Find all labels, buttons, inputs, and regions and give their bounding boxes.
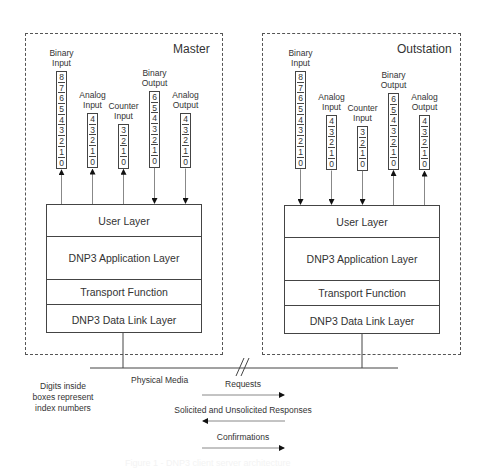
- break-mark-2: [241, 358, 249, 376]
- break-mark-1: [236, 358, 244, 376]
- connector-lines: [0, 0, 483, 471]
